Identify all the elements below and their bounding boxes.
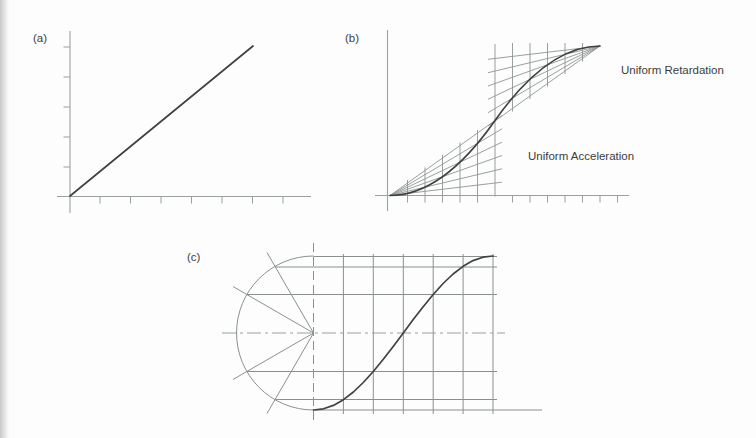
panel-a-label: (a) [33,32,47,44]
panel-a: (a) [33,31,311,213]
panel-a-y-ticks [64,47,71,167]
panel-b: (b) [345,30,724,211]
cam-displacement-diagrams: (a) (b) [0,0,756,438]
uniform-velocity-line [70,46,253,196]
panel-b-axes [375,30,629,211]
panel-a-x-ticks [100,197,283,204]
panel-b-x-ticks [513,196,618,203]
shm-grid-verticals [343,254,493,414]
panel-c-label: (c) [187,251,201,263]
panel-b-label: (b) [345,32,359,44]
uniform-retardation-label: Uniform Retardation [621,64,724,76]
panel-a-axes [57,31,311,213]
figure-page: { "panels": { "a": { "label": "(a)" }, "… [0,0,756,438]
panel-c: (c) [187,243,542,424]
retardation-fan-lines [488,46,600,126]
uniform-acceleration-label: Uniform Acceleration [528,150,634,162]
acceleration-fan-lines [390,116,502,196]
